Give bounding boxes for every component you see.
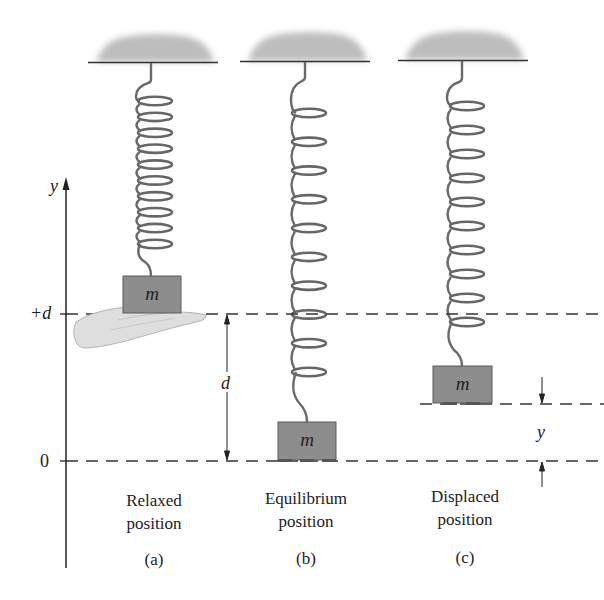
caption-b-line2: position [246,512,366,532]
tick-label-plus-d: +d [30,303,51,324]
spring-c [447,61,484,366]
mass-label-c: m [433,373,492,395]
spring-b [291,62,326,422]
ceiling-a [88,34,218,63]
ceiling-b [240,32,370,62]
caption-c-line1: Displaced [405,487,525,507]
sublabel-b: (b) [276,549,336,569]
sublabel-a: (a) [124,550,184,570]
spring-mass-diagram: y +d 0 m m m d y Relaxed position (a) Eq… [0,0,604,600]
caption-a-line1: Relaxed [94,491,214,511]
caption-c-line2: position [405,510,525,530]
ceiling-c [398,31,528,61]
spring-a [136,63,172,276]
mass-label-b: m [278,429,336,451]
caption-b-line1: Equilibrium [246,489,366,509]
stretch-label-d: d [221,373,230,394]
tick-label-zero: 0 [40,451,49,472]
caption-a-line2: position [94,514,214,534]
y-axis-label: y [50,176,58,197]
mass-label-a: m [123,283,181,305]
displacement-label-y: y [537,422,545,443]
sublabel-c: (c) [435,548,495,568]
y-axis [60,177,70,568]
